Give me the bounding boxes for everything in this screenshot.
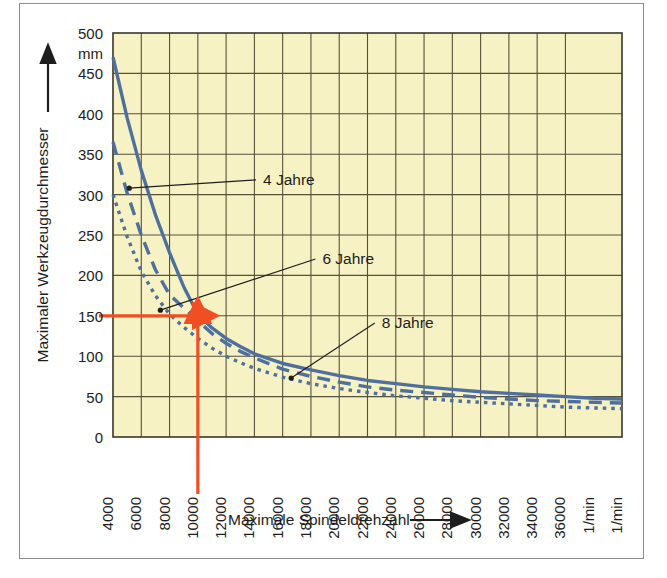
annotation-label: 6 Jahre [322, 250, 374, 267]
y-axis-title-group: Maximaler Werkzeugdurchmesser [34, 62, 51, 362]
y-axis-unit-label: mm [78, 45, 103, 62]
y-tick-label: 50 [86, 389, 103, 406]
y-axis-title: Maximaler Werkzeugdurchmesser [34, 128, 51, 363]
figure-container: 4 Jahre6 Jahre8 Jahre 400060008000100001… [0, 0, 667, 578]
x-tick-label: 12000 [212, 497, 229, 539]
annotation-label: 8 Jahre [382, 314, 434, 331]
x-tick-label: 36000 [551, 497, 568, 539]
x-tick-label: 28000 [438, 497, 455, 539]
x-tick-label: 30000 [467, 497, 484, 539]
chart-plot: 4 Jahre6 Jahre8 Jahre 400060008000100001… [0, 0, 667, 578]
x-tick-label: 1/min [608, 497, 625, 534]
x-tick-label: 34000 [523, 497, 540, 539]
annotation-anchor-dot [289, 375, 294, 380]
x-axis-title: Maximale Spindeldrehzahl [228, 511, 410, 528]
annotation-label: 4 Jahre [263, 171, 315, 188]
y-tick-label: 150 [78, 308, 103, 325]
y-axis-tick-labels: 050100150200250300350400450500 [78, 25, 103, 446]
y-tick-label: 500 [78, 25, 103, 42]
x-tick-label: 8000 [156, 497, 173, 530]
annotation-anchor-dot [127, 186, 132, 191]
y-tick-label: 300 [78, 187, 103, 204]
y-tick-label: 200 [78, 267, 103, 284]
y-tick-label: 250 [78, 227, 103, 244]
y-tick-label: 0 [95, 429, 103, 446]
x-tick-label: 10000 [184, 497, 201, 539]
y-tick-label: 450 [78, 65, 103, 82]
x-tick-label: 6000 [127, 497, 144, 530]
x-tick-label: 26000 [410, 497, 427, 539]
y-tick-label: 350 [78, 146, 103, 163]
x-tick-label: 4000 [99, 497, 116, 530]
annotation-anchor-dot [158, 308, 163, 313]
y-tick-label: 400 [78, 106, 103, 123]
x-tick-label: 32000 [495, 497, 512, 539]
y-tick-label: 100 [78, 348, 103, 365]
x-axis-unit-label: 1/min [580, 497, 597, 534]
